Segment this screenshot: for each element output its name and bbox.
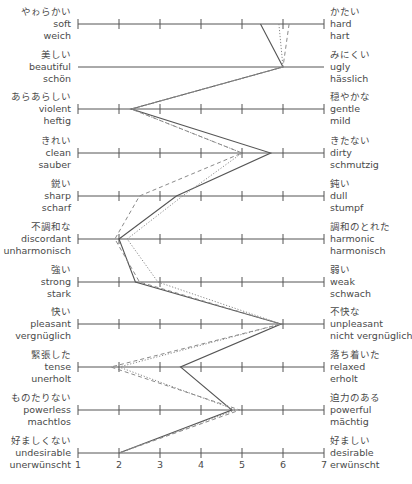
label-de: hart	[330, 30, 360, 42]
label-de: nicht vergnüglich	[330, 330, 412, 342]
label-en: desirable	[330, 447, 379, 459]
scale-label-left: やゎらかいsoftweich	[21, 6, 71, 42]
label-de: stumpf	[330, 202, 363, 214]
label-en: strong	[41, 276, 71, 288]
scale-label-left: あらあらしいviolentheftig	[11, 91, 71, 127]
scale-label-right: きたないdirtyschmutzig	[330, 135, 379, 171]
scale-label-left: 緊張したtenseunerholt	[31, 349, 71, 385]
scale-label-right: 迫力のあるpowerfulmächtig	[330, 392, 380, 428]
x-tick-label: 6	[276, 459, 290, 470]
label-ja: きれい	[38, 135, 71, 147]
label-de: harmonisch	[330, 245, 390, 257]
label-en: weak	[330, 276, 371, 288]
label-de: machtlos	[11, 416, 71, 428]
label-de: heftig	[11, 115, 71, 127]
label-ja: 調和のとれた	[330, 221, 390, 233]
label-ja: みにくい	[330, 49, 370, 61]
label-ja: きたない	[330, 135, 379, 147]
x-tick-label: 3	[153, 459, 167, 470]
label-de: weich	[21, 30, 71, 42]
label-ja: 不快な	[330, 306, 412, 318]
scale-label-right: みにくいuglyhässlich	[330, 49, 370, 85]
label-ja: 落ち着いた	[330, 349, 380, 361]
scale-row-tense-relaxed	[78, 362, 324, 372]
label-en: dirty	[330, 147, 379, 159]
scale-row-discordant-harmonic	[78, 234, 324, 244]
label-en: dull	[330, 190, 363, 202]
label-en: sharp	[42, 190, 71, 202]
label-ja: 好ましくない	[9, 435, 71, 447]
label-en: pleasant	[15, 318, 71, 330]
label-de: stark	[41, 288, 71, 300]
label-en: violent	[11, 103, 71, 115]
x-tick-label: 7	[317, 459, 331, 470]
scale-label-left: 快いpleasantvergnüglich	[15, 306, 71, 342]
scale-label-right: かたいhardhart	[330, 6, 360, 42]
label-ja: 迫力のある	[330, 392, 380, 404]
scale-label-left: 好ましくないundesirableunerwünscht	[9, 435, 71, 471]
label-en: harmonic	[330, 233, 390, 245]
label-en: hard	[330, 18, 360, 30]
label-de: schwach	[330, 288, 371, 300]
label-ja: ものたりない	[11, 392, 71, 404]
label-de: mild	[330, 115, 370, 127]
label-en: unpleasant	[330, 318, 412, 330]
label-en: powerless	[11, 404, 71, 416]
label-de: hässlich	[330, 73, 370, 85]
label-ja: 緊張した	[31, 349, 71, 361]
label-en: relaxed	[330, 361, 380, 373]
label-ja: 鈍い	[330, 178, 363, 190]
label-ja: 不調和な	[3, 221, 71, 233]
scale-label-left: きれいcleansauber	[38, 135, 71, 171]
label-ja: 鋭い	[42, 178, 71, 190]
x-tick-label: 1	[71, 459, 85, 470]
label-de: erholt	[330, 373, 380, 385]
label-en: discordant	[3, 233, 71, 245]
label-en: soft	[21, 18, 71, 30]
label-de: unerholt	[31, 373, 71, 385]
scale-label-right: 不快なunpleasantnicht vergnüglich	[330, 306, 412, 342]
x-tick-label: 2	[112, 459, 126, 470]
label-de: sauber	[38, 159, 71, 171]
scale-label-right: 落ち着いたrelaxederholt	[330, 349, 380, 385]
scale-row-soft-hard	[78, 19, 324, 29]
label-ja: あらあらしい	[11, 91, 71, 103]
label-de: erwünscht	[330, 459, 379, 471]
scale-row-powerless-powerful	[78, 405, 324, 415]
scale-label-left: 鋭いsharpscharf	[42, 178, 71, 214]
label-ja: 美しい	[29, 49, 71, 61]
label-ja: 弱い	[330, 264, 371, 276]
scale-row-sharp-dull	[78, 191, 324, 201]
label-ja: やゎらかい	[21, 6, 71, 18]
scale-label-right: 鈍いdullstumpf	[330, 178, 363, 214]
label-ja: 穏やかな	[330, 91, 370, 103]
x-tick-label: 5	[235, 459, 249, 470]
scale-axes	[78, 19, 324, 458]
label-en: clean	[38, 147, 71, 159]
x-tick-label: 4	[194, 459, 208, 470]
label-en: undesirable	[9, 447, 71, 459]
scale-label-left: ものたりないpowerlessmachtlos	[11, 392, 71, 428]
label-ja: 強い	[41, 264, 71, 276]
label-de: unharmonisch	[3, 245, 71, 257]
label-en: beautiful	[29, 61, 71, 73]
label-de: scharf	[42, 202, 71, 214]
scale-label-right: 弱いweakschwach	[330, 264, 371, 300]
scale-label-right: 穏やかなgentlemild	[330, 91, 370, 127]
scale-label-right: 好ましいdesirableerwünscht	[330, 435, 379, 471]
label-ja: 快い	[15, 306, 71, 318]
label-de: vergnüglich	[15, 330, 71, 342]
scale-label-left: 美しいbeautifulschön	[29, 49, 71, 85]
label-de: unerwünscht	[9, 459, 71, 471]
label-de: schmutzig	[330, 159, 379, 171]
scale-row-clean-dirty	[78, 148, 324, 158]
label-de: mächtig	[330, 416, 380, 428]
scale-row-undesirable-desirable	[78, 448, 324, 458]
label-en: tense	[31, 361, 71, 373]
scale-label-right: 調和のとれたharmonicharmonisch	[330, 221, 390, 257]
label-en: powerful	[330, 404, 380, 416]
label-ja: 好ましい	[330, 435, 379, 447]
scale-row-pleasant-unpleasant	[78, 319, 324, 329]
scale-label-left: 不調和なdiscordantunharmonisch	[3, 221, 71, 257]
label-ja: かたい	[330, 6, 360, 18]
